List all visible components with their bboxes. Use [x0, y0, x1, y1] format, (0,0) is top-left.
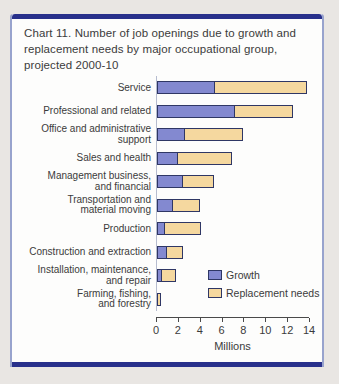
x-axis-tick-label: 2: [168, 324, 188, 336]
legend-item: Replacement needs: [208, 284, 319, 302]
legend-label: Replacement needs: [226, 287, 319, 299]
x-axis-tick-label: 14: [299, 324, 319, 336]
bar-track: [156, 147, 322, 171]
segment-growth: [157, 222, 165, 235]
stacked-bar: [157, 105, 293, 118]
category-label: Transportation and material moving: [12, 195, 156, 216]
chart-row: Production: [12, 217, 322, 241]
legend-item: Growth: [208, 266, 319, 284]
legend-swatch-icon: [208, 288, 222, 298]
segment-growth: [157, 175, 183, 188]
segment-replacement-needs: [167, 246, 183, 259]
chart-row: Transportation and material moving: [12, 194, 322, 218]
chart-row: Construction and extraction: [12, 241, 322, 265]
stacked-bar: [157, 128, 243, 141]
x-axis-tick-mark: [178, 318, 179, 322]
category-label: Office and administrative support: [12, 124, 156, 145]
segment-growth: [157, 105, 235, 118]
x-axis: 02468101214 Millions: [156, 311, 324, 361]
x-axis-tick-mark: [156, 318, 157, 322]
x-axis-tick-label: 0: [146, 324, 166, 336]
chart-row: Office and administrative support: [12, 123, 322, 147]
x-axis-tick-label: 4: [190, 324, 210, 336]
x-axis-tick-label: 10: [255, 324, 275, 336]
bar-track: [156, 217, 322, 241]
x-axis-title: Millions: [156, 340, 309, 352]
segment-growth: [157, 152, 178, 165]
chart-title: Chart 11. Number of job openings due to …: [24, 25, 314, 73]
segment-replacement-needs: [183, 175, 214, 188]
segment-growth: [157, 128, 185, 141]
segment-replacement-needs: [185, 128, 243, 141]
stacked-bar: [157, 293, 161, 306]
segment-replacement-needs: [215, 81, 307, 94]
chart-card: Chart 11. Number of job openings due to …: [10, 14, 324, 367]
chart-row: Management business, and financial: [12, 170, 322, 194]
segment-growth: [157, 199, 173, 212]
legend-swatch-icon: [208, 270, 222, 280]
category-label: Construction and extraction: [12, 247, 156, 258]
bar-track: [156, 194, 322, 218]
category-label: Sales and health: [12, 153, 156, 164]
x-axis-tick-mark: [243, 318, 244, 322]
x-axis-tick-mark: [200, 318, 201, 322]
category-label: Production: [12, 224, 156, 235]
segment-growth: [157, 81, 215, 94]
segment-replacement-needs: [162, 269, 176, 282]
category-label: Farming, fishing, and forestry: [12, 289, 156, 310]
category-label: Management business, and financial: [12, 171, 156, 192]
stacked-bar: [157, 222, 201, 235]
x-axis-tick-label: 6: [212, 324, 232, 336]
category-label: Service: [12, 83, 156, 94]
segment-replacement-needs: [173, 199, 200, 212]
segment-replacement-needs: [165, 222, 201, 235]
segment-replacement-needs: [157, 293, 161, 306]
stacked-bar: [157, 199, 200, 212]
stacked-bar: [157, 152, 232, 165]
legend-label: Growth: [226, 269, 260, 281]
bar-track: [156, 76, 322, 100]
stacked-bar: [157, 175, 214, 188]
stacked-bar: [157, 81, 307, 94]
x-axis-tick-label: 12: [277, 324, 297, 336]
chart-row: Service: [12, 76, 322, 100]
page-background: Chart 11. Number of job openings due to …: [0, 0, 339, 384]
x-axis-tick-mark: [265, 318, 266, 322]
bar-track: [156, 241, 322, 265]
bar-track: [156, 100, 322, 124]
chart-row: Professional and related: [12, 100, 322, 124]
stacked-bar: [157, 269, 176, 282]
bar-track: [156, 170, 322, 194]
segment-growth: [157, 246, 167, 259]
chart-row: Sales and health: [12, 147, 322, 171]
x-axis-tick-mark: [309, 318, 310, 322]
x-axis-tick-mark: [287, 318, 288, 322]
x-axis-tick-label: 8: [233, 324, 253, 336]
x-axis-tick-mark: [222, 318, 223, 322]
stacked-bar: [157, 246, 183, 259]
category-label: Professional and related: [12, 106, 156, 117]
legend: GrowthReplacement needs: [208, 266, 319, 302]
x-axis-line: [156, 317, 309, 318]
card-bottom-accent-bar: [12, 362, 322, 367]
segment-replacement-needs: [178, 152, 232, 165]
bar-track: [156, 123, 322, 147]
category-label: Installation, maintenance, and repair: [12, 265, 156, 286]
card-top-accent-bar: [12, 14, 322, 19]
segment-replacement-needs: [235, 105, 293, 118]
